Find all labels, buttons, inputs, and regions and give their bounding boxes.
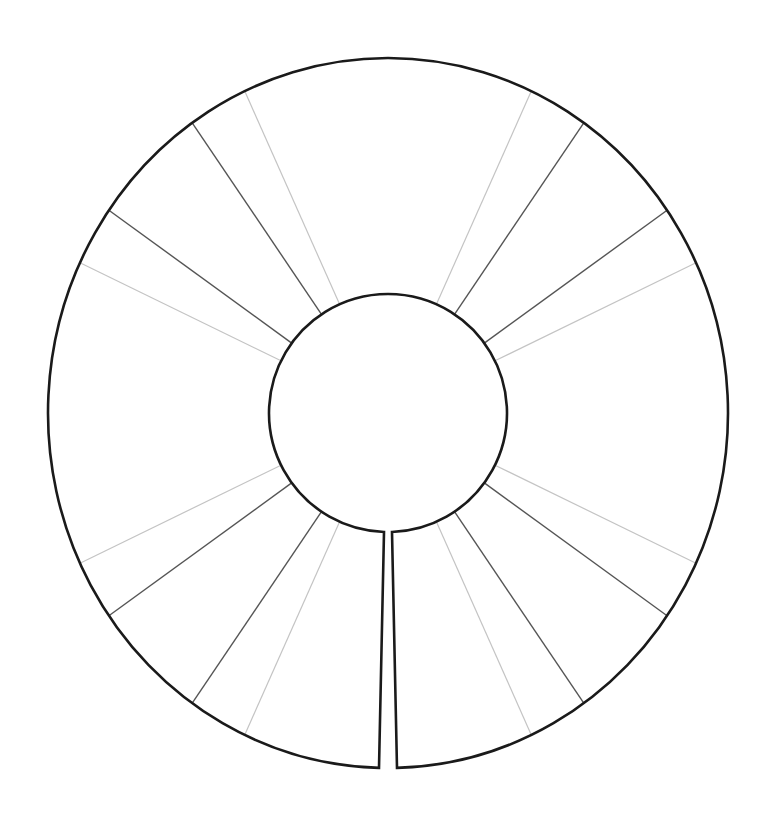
background: [0, 0, 767, 817]
ring-template-diagram: [0, 0, 767, 817]
